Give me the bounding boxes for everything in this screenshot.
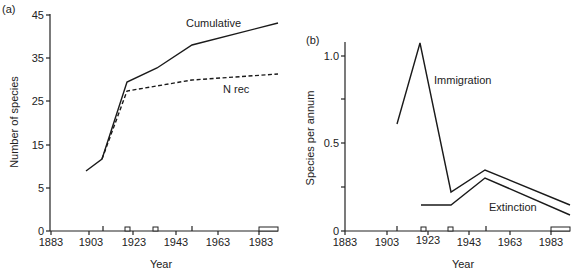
- y-axis-label: Species per annum: [304, 91, 316, 186]
- panel-b-label: (b): [306, 34, 319, 46]
- annotation-extinction: Extinction: [489, 201, 537, 213]
- y-ticks: 45 35 25 15 5 0: [32, 9, 50, 237]
- x-tick-label: 1963: [206, 236, 230, 248]
- y-tick-label: 45: [32, 9, 44, 21]
- y-tick-label: 35: [32, 52, 44, 64]
- y-tick-label: 15: [32, 139, 44, 151]
- annotation-cumulative: Cumulative: [186, 17, 241, 29]
- survey-marker: [259, 227, 278, 231]
- x-tick-label: 1903: [375, 236, 399, 248]
- x-tick-label: 1883: [39, 236, 63, 248]
- survey-marker: [551, 227, 570, 231]
- survey-marker: [125, 227, 130, 231]
- y-ticks: 1.0 0.5 0: [324, 50, 345, 237]
- y-tick-label: 0.5: [324, 137, 339, 149]
- survey-marker: [421, 227, 426, 231]
- x-tick-label: 1883: [333, 236, 357, 248]
- y-tick-label: 5: [38, 182, 44, 194]
- annotation-immigration: Immigration: [434, 74, 491, 86]
- survey-marker: [153, 227, 158, 231]
- survey-marker: [448, 227, 453, 231]
- x-tick-label: 1903: [79, 236, 103, 248]
- x-tick-label: 1983: [539, 236, 563, 248]
- annotation-n-rec: N rec: [223, 83, 250, 95]
- figure: (a) 45 35 25 15 5 0: [0, 0, 581, 276]
- panel-b: (b) 1.0 0.5 0 1883 1903 1923 1943: [304, 34, 570, 270]
- x-axis-label: Year: [452, 258, 475, 270]
- series-cumulative: [86, 23, 278, 171]
- series-immigration: [397, 43, 570, 205]
- x-tick-label: 1923: [416, 234, 440, 246]
- x-tick-label: 1943: [457, 236, 481, 248]
- panel-a: (a) 45 35 25 15 5 0: [2, 3, 278, 270]
- x-tick-label: 1943: [164, 236, 188, 248]
- x-tick-label: 1923: [122, 236, 146, 248]
- series-n-rec: [102, 74, 278, 159]
- x-tick-label: 1963: [498, 236, 522, 248]
- y-tick-label: 25: [32, 95, 44, 107]
- y-axis-label: Number of species: [8, 76, 20, 168]
- x-axis-label: Year: [150, 258, 173, 270]
- y-tick-label: 1.0: [324, 50, 339, 62]
- panel-a-label: (a): [2, 3, 15, 15]
- x-tick-label: 1983: [249, 236, 273, 248]
